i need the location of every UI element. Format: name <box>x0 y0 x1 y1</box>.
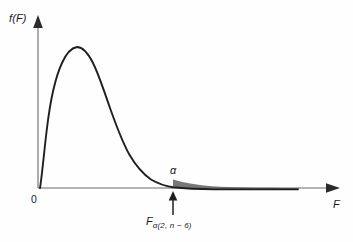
x-axis-label: F <box>333 199 340 210</box>
f-distribution-figure: f(F) F 0 α Fα(2, n − 6) <box>0 0 353 242</box>
y-axis-arrowhead <box>33 15 43 28</box>
critical-value-label: Fα(2, n − 6) <box>146 216 192 230</box>
critical-value-subscript: α(2, n − 6) <box>153 221 192 230</box>
tail-shaded-region <box>173 180 296 189</box>
origin-label: 0 <box>31 194 37 205</box>
tail-area-alpha-label: α <box>170 165 176 176</box>
x-axis-arrowhead <box>326 183 340 193</box>
figure-canvas <box>0 0 353 242</box>
density-curve <box>40 47 298 189</box>
y-axis-label: f(F) <box>9 13 27 24</box>
critical-value-subscript-df: (2, n − 6) <box>158 221 192 230</box>
critical-value-symbol: F <box>146 215 153 227</box>
critical-value-arrowhead <box>169 191 178 201</box>
